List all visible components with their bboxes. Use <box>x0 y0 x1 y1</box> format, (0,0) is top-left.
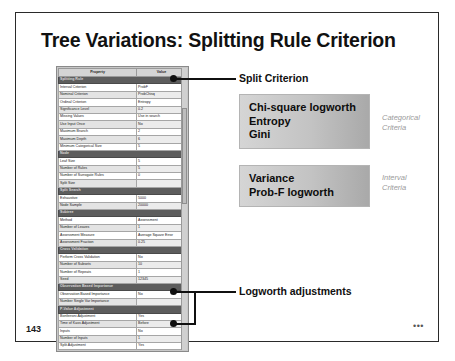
logworth-leader-line <box>196 291 236 294</box>
property-row[interactable]: Use Input OnceNo <box>59 121 187 128</box>
property-section-row[interactable]: Cross Validation <box>59 246 187 253</box>
slide-canvas: Tree Variations: Splitting Rule Criterio… <box>15 12 439 342</box>
property-value-cell[interactable]: 20000 <box>137 202 187 209</box>
property-name-cell: Number of Rules <box>59 165 137 172</box>
property-value-cell[interactable]: 2 <box>137 128 187 135</box>
property-row[interactable]: Significance Level0.2 <box>59 106 187 113</box>
property-value-cell[interactable]: 1 <box>137 335 187 342</box>
property-row[interactable]: Interval CriterionProbF <box>59 84 187 91</box>
property-value-cell[interactable]: 6 <box>137 136 187 143</box>
property-name-cell: Leaf Size <box>59 158 137 165</box>
property-row[interactable]: Split Size <box>59 180 187 187</box>
property-name-cell: Time of Kass Adjustment <box>59 320 137 327</box>
property-row[interactable]: Missing ValuesUse in search <box>59 113 187 120</box>
property-value-cell[interactable]: 12345 <box>137 276 187 283</box>
page-title: Tree Variations: Splitting Rule Criterio… <box>41 29 396 52</box>
property-name-cell: Bonferroni Adjustment <box>59 313 137 320</box>
property-row[interactable]: Time of Kass AdjustmentBefore <box>59 320 187 327</box>
property-name-cell: Assessment Fraction <box>59 239 137 246</box>
property-section-label: Observation Based Importance <box>59 283 187 290</box>
property-row[interactable]: Split AdjustmentYes <box>59 343 187 350</box>
property-value-cell[interactable]: 5000 <box>137 195 187 202</box>
property-value-cell[interactable]: 1 <box>137 224 187 231</box>
property-row[interactable]: Number of Subsets10 <box>59 261 187 268</box>
property-value-cell[interactable]: ProbF <box>137 84 187 91</box>
property-value-cell[interactable]: Average Square Error <box>137 232 187 239</box>
property-section-label: Node <box>59 150 187 157</box>
property-row[interactable]: Assessment Fraction0.25 <box>59 239 187 246</box>
property-row[interactable]: Maximum Branch2 <box>59 128 187 135</box>
property-section-row[interactable]: Subtree <box>59 210 187 217</box>
property-section-label: Split Search <box>59 187 187 194</box>
vertical-scrollbar[interactable] <box>181 68 187 350</box>
property-name-cell: Use Input Once <box>59 121 137 128</box>
callout-split-criterion: Split Criterion <box>239 72 308 84</box>
property-sheet[interactable]: Property Value Splitting RuleInterval Cr… <box>56 66 189 352</box>
property-name-cell: Split Adjustment <box>59 343 137 350</box>
property-row[interactable]: Bonferroni AdjustmentYes <box>59 313 187 320</box>
property-value-cell[interactable]: No <box>137 121 187 128</box>
property-value-cell[interactable]: ProbChisq <box>137 91 187 98</box>
column-header-value[interactable]: Value <box>137 69 187 77</box>
property-value-cell[interactable]: Yes <box>137 343 187 350</box>
property-name-cell: Maximum Depth <box>59 136 137 143</box>
property-value-cell[interactable]: Yes <box>137 313 187 320</box>
criteria-line: Variance <box>249 172 369 186</box>
property-row[interactable]: Number of Surrogate Rules0 <box>59 173 187 180</box>
property-name-cell: Inputs <box>59 328 137 335</box>
property-row[interactable]: Perform Cross ValidationNo <box>59 254 187 261</box>
property-row[interactable]: Exhaustive5000 <box>59 195 187 202</box>
property-value-cell[interactable]: Entropy <box>137 99 187 106</box>
property-value-cell[interactable] <box>137 298 187 305</box>
property-row[interactable]: Leaf Size5 <box>59 158 187 165</box>
property-value-cell[interactable]: 0.25 <box>137 239 187 246</box>
property-section-row[interactable]: Split Search <box>59 187 187 194</box>
property-value-cell[interactable]: 5 <box>137 165 187 172</box>
property-row[interactable]: Nominal CriterionProbChisq <box>59 91 187 98</box>
property-section-label: Cross Validation <box>59 246 187 253</box>
property-value-cell[interactable]: Assessment <box>137 217 187 224</box>
property-section-label: Subtree <box>59 210 187 217</box>
property-row[interactable]: Observation Based ImportanceNo <box>59 291 187 298</box>
property-row[interactable]: Assessment MeasureAverage Square Error <box>59 232 187 239</box>
property-row[interactable]: Maximum Depth6 <box>59 136 187 143</box>
split-criterion-leader-line <box>174 78 236 81</box>
property-name-cell: Missing Values <box>59 113 137 120</box>
property-value-cell[interactable]: 1 <box>137 269 187 276</box>
property-row[interactable]: Number of Repeats1 <box>59 269 187 276</box>
property-value-cell[interactable]: Use in search <box>137 113 187 120</box>
property-row[interactable]: InputsNo <box>59 328 187 335</box>
property-value-cell[interactable]: 10 <box>137 261 187 268</box>
property-name-cell: Maximum Branch <box>59 128 137 135</box>
property-section-row[interactable]: Node <box>59 150 187 157</box>
property-section-row[interactable]: Splitting Rule <box>59 77 187 84</box>
property-value-cell[interactable]: 0 <box>137 173 187 180</box>
property-section-row[interactable]: P-Value Adjustment <box>59 306 187 313</box>
property-table-body: Splitting RuleInterval CriterionProbFNom… <box>59 77 187 350</box>
column-header-property[interactable]: Property <box>59 69 137 77</box>
property-value-cell[interactable]: 5 <box>137 143 187 150</box>
property-name-cell: Number Single Var Importance <box>59 298 137 305</box>
slide-number: 143 <box>26 324 41 334</box>
property-row[interactable]: Ordinal CriterionEntropy <box>59 99 187 106</box>
property-row[interactable]: Minimum Categorical Size5 <box>59 143 187 150</box>
property-value-cell[interactable]: 0.2 <box>137 106 187 113</box>
property-value-cell[interactable]: 5 <box>137 158 187 165</box>
property-row[interactable]: MethodAssessment <box>59 217 187 224</box>
property-section-label: Splitting Rule <box>59 77 187 84</box>
property-value-cell[interactable] <box>137 180 187 187</box>
property-row[interactable]: Number of Rules5 <box>59 165 187 172</box>
property-row[interactable]: Seed12345 <box>59 276 187 283</box>
property-section-row[interactable]: Observation Based Importance <box>59 283 187 290</box>
property-name-cell: Method <box>59 217 137 224</box>
property-row[interactable]: Number of Leaves1 <box>59 224 187 231</box>
logworth-bracket-vertical <box>194 291 197 325</box>
property-row[interactable]: Number of Inputs1 <box>59 335 187 342</box>
property-row[interactable]: Number Single Var Importance <box>59 298 187 305</box>
caption-line: Interval <box>382 173 407 183</box>
property-value-cell[interactable]: No <box>137 254 187 261</box>
property-value-cell[interactable]: No <box>137 328 187 335</box>
property-name-cell: Nominal Criterion <box>59 91 137 98</box>
scrollbar-thumb[interactable] <box>182 108 187 204</box>
property-row[interactable]: Node Sample20000 <box>59 202 187 209</box>
